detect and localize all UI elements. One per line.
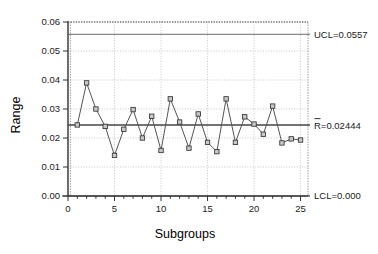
y-axis-tick-label: 0.02 bbox=[42, 132, 61, 143]
data-point-marker: 22: 0.031 bbox=[270, 104, 274, 108]
data-point-marker: 20: 0.0248 bbox=[252, 122, 256, 126]
data-point-marker: 16: 0.0153 bbox=[215, 149, 219, 153]
data-point-marker: 5: 0.014 bbox=[112, 153, 116, 157]
data-point-marker: 23: 0.0183 bbox=[280, 141, 284, 145]
y-axis-title: Range bbox=[9, 97, 23, 134]
control-chart: 1: 0.02452: 0.0393: 0.034: 0.0245: 0.014… bbox=[0, 0, 378, 254]
x-axis-tick-label: 20 bbox=[249, 203, 260, 214]
data-point-marker: 17: 0.0335 bbox=[224, 97, 228, 101]
data-point-marker: 18: 0.0185 bbox=[233, 140, 237, 144]
data-point-marker: 9: 0.0275 bbox=[150, 114, 154, 118]
lcl-label: LCL=0.000 bbox=[314, 190, 361, 201]
x-axis-tick-label: 10 bbox=[156, 203, 167, 214]
data-point-marker: 12: 0.0255 bbox=[177, 120, 181, 124]
center-label-group: R=0.02444 bbox=[314, 119, 361, 131]
x-axis-tick-label: 15 bbox=[202, 203, 213, 214]
x-axis-tick-label: 5 bbox=[112, 203, 117, 214]
y-axis-tick-label: 0.04 bbox=[42, 74, 61, 85]
data-point-marker: 14: 0.0283 bbox=[196, 112, 200, 116]
data-point-marker: 15: 0.0185 bbox=[205, 140, 209, 144]
y-axis-tick-label: 0.01 bbox=[42, 161, 61, 172]
y-axis-tick-label: 0.05 bbox=[42, 45, 61, 56]
data-point-marker: 19: 0.0273 bbox=[243, 115, 247, 119]
data-point-marker: 2: 0.039 bbox=[84, 81, 88, 85]
y-axis-tick-label: 0.03 bbox=[42, 103, 61, 114]
x-axis-title: Subgroups bbox=[155, 227, 215, 241]
data-point-marker: 25: 0.0193 bbox=[298, 138, 302, 142]
data-point-marker: 21: 0.0213 bbox=[261, 132, 265, 136]
data-point-marker: 10: 0.0157 bbox=[159, 148, 163, 152]
ucl-label-group: UCL=0.0557 bbox=[314, 29, 368, 40]
chart-canvas: 1: 0.02452: 0.0393: 0.034: 0.0245: 0.014… bbox=[0, 0, 378, 254]
y-axis-tick-label: 0.00 bbox=[42, 190, 61, 201]
center-label: R=0.02444 bbox=[314, 120, 361, 131]
data-point-marker: 1: 0.0245 bbox=[75, 123, 79, 127]
data-point-marker: 4: 0.024 bbox=[103, 124, 107, 128]
data-point-marker: 6: 0.023 bbox=[122, 127, 126, 131]
x-axis-tick-label: 25 bbox=[295, 203, 306, 214]
data-point-marker: 7: 0.0298 bbox=[131, 107, 135, 111]
lcl-label-group: LCL=0.000 bbox=[314, 190, 361, 201]
ucl-label: UCL=0.0557 bbox=[314, 29, 368, 40]
y-axis-tick-label: 0.06 bbox=[42, 16, 61, 27]
data-point-marker: 3: 0.03 bbox=[94, 107, 98, 111]
data-point-marker: 8: 0.02 bbox=[140, 136, 144, 140]
data-point-marker: 24: 0.0197 bbox=[289, 137, 293, 141]
x-axis-tick-label: 0 bbox=[65, 203, 70, 214]
data-point-marker: 11: 0.0335 bbox=[168, 97, 172, 101]
data-point-marker: 13: 0.0165 bbox=[187, 146, 191, 150]
